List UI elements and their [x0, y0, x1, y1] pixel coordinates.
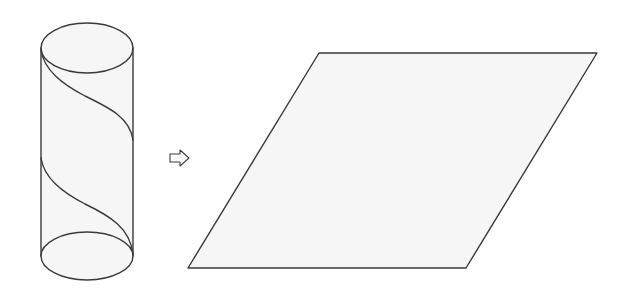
- parallelogram: [188, 53, 597, 268]
- diagram-svg: [0, 0, 626, 300]
- unrolled-surface: [188, 53, 597, 268]
- cylinder-body-fill: [41, 23, 133, 280]
- diagram-canvas: [0, 0, 626, 300]
- cylinder: [41, 23, 133, 280]
- hollow-right-arrow-icon: [170, 150, 189, 166]
